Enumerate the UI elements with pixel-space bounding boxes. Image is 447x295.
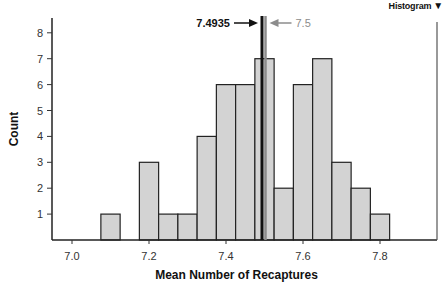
histogram-bar[interactable] xyxy=(236,85,255,240)
y-tick-label: 3 xyxy=(37,156,43,168)
x-tick-label: 7.8 xyxy=(372,250,387,262)
observed-value-label: 7.4935 xyxy=(196,17,230,29)
histogram-bar[interactable] xyxy=(197,136,216,240)
histogram-bar[interactable] xyxy=(332,162,351,240)
x-tick-label: 7.2 xyxy=(141,250,156,262)
y-tick-label: 6 xyxy=(37,79,43,91)
histogram-bar[interactable] xyxy=(101,214,120,240)
histogram-bar[interactable] xyxy=(159,214,178,240)
y-tick-label: 2 xyxy=(37,182,43,194)
histogram-bar[interactable] xyxy=(293,85,312,240)
histogram-bar[interactable] xyxy=(178,214,197,240)
y-axis-title: Count xyxy=(7,112,21,147)
histogram-bar[interactable] xyxy=(370,214,389,240)
y-tick-label: 7 xyxy=(37,53,43,65)
histogram-chart: 123456787.07.27.47.67.8 7.49357.5 Mean N… xyxy=(0,0,447,295)
x-tick-label: 7.6 xyxy=(295,250,310,262)
histogram-bar[interactable] xyxy=(274,188,293,240)
histogram-bar[interactable] xyxy=(139,162,158,240)
x-tick-label: 7.4 xyxy=(218,250,233,262)
x-axis-title: Mean Number of Recaptures xyxy=(155,268,318,282)
histogram-bar[interactable] xyxy=(216,85,235,240)
reference-value-label: 7.5 xyxy=(296,17,311,29)
y-tick-label: 5 xyxy=(37,105,43,117)
y-tick-label: 1 xyxy=(37,208,43,220)
histogram-bar[interactable] xyxy=(313,59,332,240)
arrow-right-icon xyxy=(249,19,258,27)
y-tick-label: 4 xyxy=(37,130,43,142)
histogram-bar[interactable] xyxy=(351,188,370,240)
histogram-bars xyxy=(101,59,390,240)
y-tick-label: 8 xyxy=(37,27,43,39)
x-tick-label: 7.0 xyxy=(64,250,79,262)
